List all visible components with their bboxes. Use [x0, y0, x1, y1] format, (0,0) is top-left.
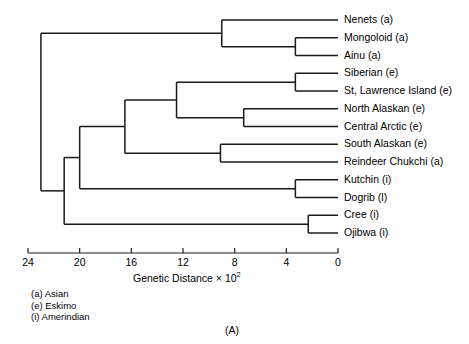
leaf-label: Central Arctic (e)	[344, 121, 422, 132]
axis-tick-label: 16	[111, 256, 151, 268]
leaf-label: Siberian (e)	[344, 67, 398, 78]
dendrogram-figure: Nenets (a)Mongoloid (a)Ainu (a)Siberian …	[0, 0, 469, 344]
leaf-label: Ojibwa (i)	[344, 227, 388, 238]
axis-tick-label: 12	[163, 256, 203, 268]
leaf-label: North Alaskan (e)	[344, 103, 425, 114]
legend-entry: (e) Eskimo	[31, 300, 76, 311]
axis-title-exponent: 2	[237, 270, 241, 279]
leaf-label: South Alaskan (e)	[344, 138, 427, 149]
leaf-label: Reindeer Chukchi (a)	[344, 156, 443, 167]
axis-title-text: Genetic Distance × 10	[133, 272, 237, 284]
axis-tick-label: 8	[215, 256, 255, 268]
legend-entry: (a) Asian	[31, 288, 69, 299]
leaf-label: Nenets (a)	[344, 14, 393, 25]
panel-label: (A)	[225, 324, 239, 336]
leaf-label: St, Lawrence Island (e)	[344, 85, 452, 96]
legend-entry: (i) Amerindian	[31, 311, 90, 322]
axis-tick-label: 0	[318, 256, 358, 268]
axis-tick-label: 4	[266, 256, 306, 268]
dendrogram-tree-svg	[0, 0, 469, 344]
leaf-label: Dogrib (l)	[344, 192, 387, 203]
axis-title: Genetic Distance × 102	[133, 270, 241, 284]
leaf-label: Mongoloid (a)	[344, 32, 408, 43]
axis-tick-label: 20	[60, 256, 100, 268]
leaf-label: Ainu (a)	[344, 50, 381, 61]
axis-tick-label: 24	[8, 256, 48, 268]
leaf-label: Cree (i)	[344, 209, 379, 220]
leaf-label: Kutchin (i)	[344, 174, 391, 185]
